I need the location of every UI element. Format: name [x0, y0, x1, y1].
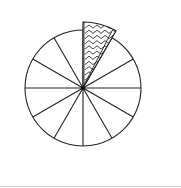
division-line: [83, 88, 112, 138]
division-line: [54, 88, 83, 138]
center-point: [81, 86, 85, 90]
fraction-circle-diagram: [0, 0, 181, 188]
division-line: [54, 38, 83, 88]
bottom-rule: [0, 186, 181, 187]
division-line: [33, 59, 83, 88]
division-line: [33, 88, 83, 117]
division-line: [83, 88, 133, 117]
